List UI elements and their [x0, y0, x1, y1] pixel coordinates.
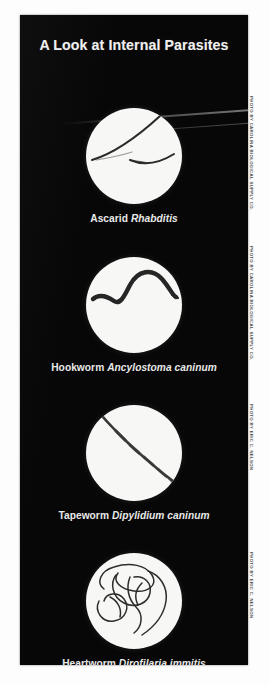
figure-caption-hookworm: Hookworm Ancylostoma caninum	[20, 362, 248, 373]
tapeworm-species-name: Dipylidium caninum	[112, 510, 210, 521]
heartworm-photo	[86, 553, 182, 649]
ascarid-species-name: Rhabditis	[131, 213, 178, 224]
figure-ascarid: Ascarid Rhabditis	[20, 108, 248, 224]
page-title: A Look at Internal Parasites	[20, 37, 248, 53]
figure-tapeworm: Tapeworm Dipylidium caninum	[20, 405, 248, 521]
photo-credit-heartworm: Photo by Eric C. Nelson	[249, 552, 254, 618]
scanned-page: A Look at Internal Parasites Ascarid Rha…	[0, 0, 269, 685]
heartworm-species-name: Dirofilaria immitis	[119, 658, 206, 665]
ascarid-common-name: Ascarid	[90, 213, 128, 224]
tapeworm-common-name: Tapeworm	[58, 510, 109, 521]
photo-credit-ascarid: Photo by Carolina Biological Supply Co.	[249, 96, 254, 210]
figure-caption-heartworm: Heartworm Dirofilaria immitis	[20, 658, 248, 665]
figure-caption-tapeworm: Tapeworm Dipylidium caninum	[20, 510, 248, 521]
photo-credit-tapeworm: Photo by Eric C. Nelson	[249, 404, 254, 470]
hookworm-photo	[86, 257, 182, 353]
tapeworm-photo	[86, 405, 182, 501]
hookworm-species-name: Ancylostoma caninum	[107, 362, 217, 373]
ascarid-photo	[86, 108, 182, 204]
figure-hookworm: Hookworm Ancylostoma caninum	[20, 257, 248, 373]
hookworm-common-name: Hookworm	[51, 362, 104, 373]
photo-credit-hookworm: Photo by Carolina Biological Supply Co.	[249, 246, 254, 360]
figure-caption-ascarid: Ascarid Rhabditis	[20, 213, 248, 224]
figure-heartworm: Heartworm Dirofilaria immitis	[20, 553, 248, 665]
parasites-sidebar-panel: A Look at Internal Parasites Ascarid Rha…	[20, 15, 248, 665]
heartworm-common-name: Heartworm	[62, 658, 116, 665]
